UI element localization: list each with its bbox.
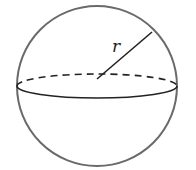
equator-back-dashed bbox=[17, 74, 177, 86]
radius-label: r bbox=[112, 36, 121, 56]
sphere-diagram: r bbox=[0, 0, 196, 170]
sphere-outline bbox=[17, 6, 177, 166]
radius-line bbox=[97, 32, 152, 79]
equator-front bbox=[17, 86, 177, 98]
